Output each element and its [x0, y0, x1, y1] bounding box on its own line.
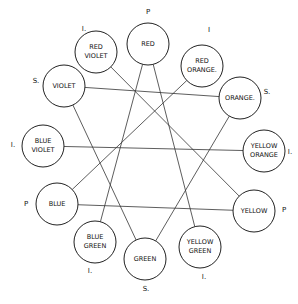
color-node-yellow-green: YELLOWGREENI.: [179, 226, 221, 281]
class-mark: P: [146, 8, 150, 16]
color-label: GREEN: [84, 242, 107, 250]
color-node-red-violet: REDVIOLETI.: [75, 25, 117, 73]
color-node-violet: VIOLETS.: [33, 65, 85, 107]
color-nodes: REDPREDORANGE.IORANGE.S.YELLOWORANGEI.YE…: [11, 8, 292, 293]
color-node-blue-violet: BLUEVIOLETI.: [11, 125, 64, 167]
class-mark: I.: [202, 273, 206, 281]
color-node-blue: BLUEP: [24, 183, 78, 225]
color-label: RED: [89, 43, 103, 51]
color-label: YELLOW: [186, 238, 214, 246]
connection-green-orange: [156, 116, 230, 241]
class-mark: I: [208, 26, 210, 34]
color-label: GREEN: [189, 247, 212, 255]
color-label: YELLOW: [240, 207, 268, 215]
color-label: VIOLET: [84, 52, 107, 60]
connection-blue-violet-yellow-orange: [64, 146, 243, 150]
class-mark: S.: [143, 285, 150, 293]
color-label: BLUE: [87, 233, 104, 241]
class-mark: P: [282, 206, 286, 214]
color-label: GREEN: [134, 255, 157, 263]
color-label: ORANGE.: [225, 94, 255, 102]
color-label: RED: [195, 57, 209, 65]
color-label: BLUE: [35, 137, 52, 145]
class-mark: I.: [88, 267, 92, 275]
connection-red-orange-blue: [72, 80, 187, 189]
color-node-green: GREENS.: [124, 238, 166, 293]
color-label: BLUE: [49, 200, 66, 208]
color-label: VIOLET: [52, 82, 75, 90]
color-label: ORANGE: [250, 151, 278, 159]
connection-blue-yellow: [78, 205, 233, 211]
color-node-red: REDP: [127, 8, 169, 65]
color-node-orange: ORANGE.S.: [219, 77, 270, 119]
color-label: VIOLET: [31, 146, 54, 154]
class-mark: I.: [11, 141, 15, 149]
class-mark: I.: [82, 25, 86, 33]
connection-violet-orange: [85, 87, 219, 96]
color-label: YELLOW: [250, 142, 278, 150]
class-mark: P: [24, 200, 28, 208]
color-wheel-diagram: REDPREDORANGE.IORANGE.S.YELLOWORANGEI.YE…: [0, 0, 298, 304]
color-node-yellow: YELLOWP: [233, 190, 286, 232]
color-node-blue-green: BLUEGREENI.: [74, 221, 116, 275]
color-node-red-orange: REDORANGE.I: [181, 26, 223, 87]
color-label: RED: [141, 40, 155, 48]
class-mark: S.: [33, 77, 40, 85]
connection-lines: [64, 64, 243, 241]
class-mark: S.: [264, 88, 271, 96]
color-node-yellow-orange: YELLOWORANGEI.: [243, 130, 292, 172]
color-label: ORANGE.: [187, 66, 217, 74]
class-mark: I.: [288, 148, 292, 156]
